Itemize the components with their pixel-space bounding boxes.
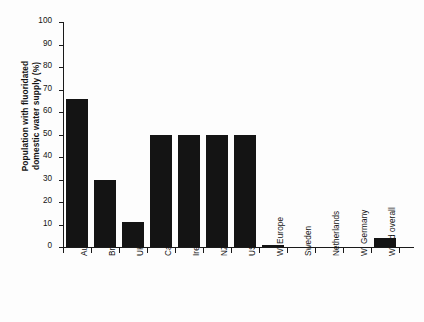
x-axis-tick — [91, 248, 92, 253]
y-axis-tick-label: 40 — [43, 151, 52, 160]
x-axis-tick — [287, 248, 288, 253]
x-axis-label: Australia — [80, 223, 89, 256]
y-axis-tick: 80 — [59, 67, 64, 68]
x-axis-label: Sweden — [304, 226, 313, 256]
y-axis-tick-label: 100 — [38, 16, 52, 25]
x-axis-tick — [343, 248, 344, 253]
x-axis-label: W. Germany — [360, 210, 369, 257]
x-axis-label: Ireland — [192, 230, 201, 256]
y-axis-tick-label: 0 — [47, 241, 52, 250]
y-axis-tick: 70 — [59, 90, 64, 91]
bar — [206, 135, 228, 248]
x-axis-label: World overall — [388, 207, 397, 256]
x-axis-tick — [399, 248, 400, 253]
y-axis-tick-label: 60 — [43, 106, 52, 115]
bar — [234, 135, 256, 248]
x-axis-label: W. Europe — [276, 217, 285, 256]
x-axis-tick — [231, 248, 232, 253]
y-axis-tick: 30 — [59, 180, 64, 181]
y-axis-tick: 40 — [59, 157, 64, 158]
x-axis-tick — [63, 248, 64, 253]
y-axis-tick-label: 90 — [43, 39, 52, 48]
y-axis-tick-label: 10 — [43, 219, 52, 228]
y-axis-tick-label: 50 — [43, 129, 52, 138]
y-axis-tick-label: 80 — [43, 61, 52, 70]
x-axis-tick — [371, 248, 372, 253]
x-axis-tick — [119, 248, 120, 253]
y-axis-tick: 20 — [59, 202, 64, 203]
y-axis-title-line-1: Population with fluoridated — [20, 61, 32, 172]
x-axis-tick — [175, 248, 176, 253]
y-axis-tick-label: 20 — [43, 196, 52, 205]
y-axis-tick: 10 — [59, 225, 64, 226]
y-axis-tick: 90 — [59, 45, 64, 46]
x-axis-label: Brazil — [108, 235, 117, 256]
x-axis-label: UK — [136, 244, 145, 256]
x-axis-tick — [315, 248, 316, 253]
x-axis-tick — [259, 248, 260, 253]
x-axis-tick — [147, 248, 148, 253]
y-axis-title-line-2: domestic water supply (%) — [31, 62, 43, 170]
y-axis-tick: 50 — [59, 135, 64, 136]
y-axis-tick-label: 30 — [43, 174, 52, 183]
y-axis-tick: 60 — [59, 112, 64, 113]
bar-chart-figure: Population with fluoridated domestic wat… — [0, 0, 424, 322]
x-axis-label: Netherlands — [332, 211, 341, 256]
x-axis-tick — [203, 248, 204, 253]
y-axis-tick: 100 — [59, 22, 64, 23]
x-axis-label: USA — [248, 239, 257, 256]
x-axis-label: Canada — [164, 227, 173, 256]
x-axis-label: NZ — [220, 245, 229, 256]
y-axis-tick-label: 70 — [43, 84, 52, 93]
